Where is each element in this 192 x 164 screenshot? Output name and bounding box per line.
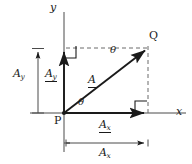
x-component-vector-label: Ax	[99, 119, 111, 130]
resultant-vector-label: A	[88, 74, 96, 85]
x-component-vector-label-text: Ax	[99, 118, 111, 133]
y-component-vector-label: Ay	[45, 68, 57, 79]
ax-dimension-label: Ax	[99, 147, 111, 158]
ay-dimension-label: Ay	[13, 68, 25, 79]
theta-angle-at-q: θ	[110, 45, 116, 55]
resultant-vector-arrow	[64, 51, 145, 114]
theta-angle-at-origin: θ	[78, 97, 84, 107]
ax-dimension-cap-left	[64, 140, 70, 147]
resultant-vector-label-text: A	[88, 73, 96, 88]
y-component-vector-label-text: Ay	[45, 67, 57, 82]
x-axis-label: x	[176, 106, 182, 117]
point-label-p: P	[54, 115, 61, 126]
bottom-right-right-angle-icon	[135, 101, 147, 113]
origin-point-marker	[62, 111, 66, 115]
vector-components-diagram: y x P Q A Ax Ay Ay Ax θ θ	[0, 0, 192, 164]
y-axis-label: y	[50, 2, 56, 13]
point-label-q: Q	[149, 30, 158, 41]
diagram-canvas	[0, 0, 192, 164]
